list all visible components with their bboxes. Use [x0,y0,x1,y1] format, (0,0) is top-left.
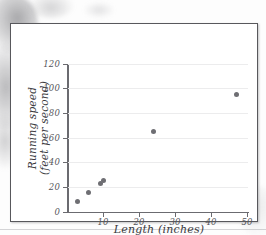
scanned-page: Running speed (feet per second) Length (… [0,0,266,235]
scan-artifact-smudge [84,2,114,18]
x-axis-tick-label: 30 [165,217,185,227]
x-axis-tick-label: 50 [237,217,257,227]
data-point [101,178,106,183]
y-axis-tick [63,113,68,114]
gridline [67,88,248,89]
gridline [67,187,248,188]
x-axis-line [67,212,249,214]
y-axis-tick [63,64,68,65]
x-axis-tick-label: 40 [201,217,221,227]
gridline [67,162,248,163]
y-axis-tick-label: 80 [38,108,60,118]
gridline [67,138,248,139]
scan-artifact-smudge [28,0,74,18]
x-axis-tick-label: 20 [129,217,149,227]
y-axis-tick-label: 40 [38,157,60,167]
y-axis-tick [63,88,68,89]
y-axis-tick [63,187,68,188]
gridline [67,64,248,65]
data-point [86,190,91,195]
y-axis-tick-label: 0 [38,207,60,217]
gridline [67,113,248,114]
x-axis-tick-label: 10 [93,217,113,227]
y-axis-title-line1: Running speed [26,87,38,169]
data-point [151,129,156,134]
y-axis-tick-label: 60 [38,133,60,143]
y-axis-tick-label: 120 [38,59,60,69]
y-axis-tick-label: 20 [38,182,60,192]
y-axis-tick [63,138,68,139]
data-point [234,92,239,97]
figure-frame: Running speed (feet per second) Length (… [10,23,258,222]
y-axis-tick-label: 100 [38,83,60,93]
y-axis-tick [63,162,68,163]
y-axis-tick [63,212,68,213]
